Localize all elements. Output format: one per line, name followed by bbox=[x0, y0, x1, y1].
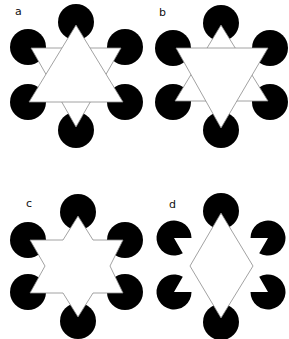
panel-c: c bbox=[10, 194, 143, 339]
panel-a: a bbox=[10, 4, 143, 148]
panel-b: b bbox=[155, 5, 288, 148]
panel-label-a: a bbox=[15, 5, 22, 18]
kanizsa-figure: a b c bbox=[0, 0, 289, 339]
diamond-figure-d bbox=[190, 213, 253, 318]
panel-label-b: b bbox=[159, 6, 166, 19]
panel-label-c: c bbox=[26, 197, 32, 210]
panel-d: d bbox=[157, 193, 286, 339]
star-figure-c bbox=[30, 216, 123, 317]
panel-label-d: d bbox=[169, 198, 176, 211]
